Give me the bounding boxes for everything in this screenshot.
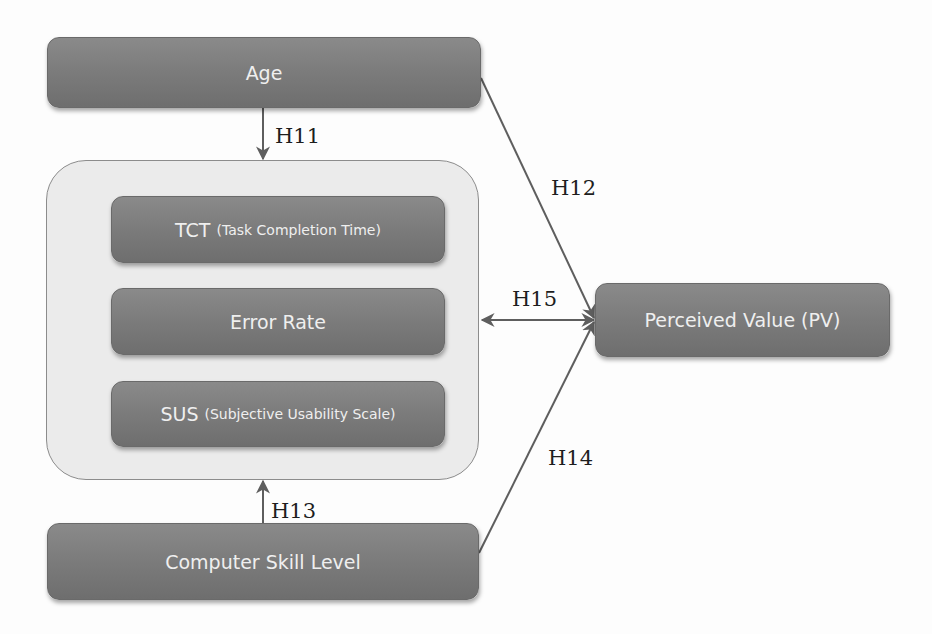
edge-label-h13: H13 <box>271 501 316 522</box>
node-perceived-value-label: Perceived Value (PV) <box>645 309 841 331</box>
node-tct-label: TCT <box>175 219 210 241</box>
node-perceived-value: Perceived Value (PV) <box>595 283 890 357</box>
node-tct: TCT (Task Completion Time) <box>111 196 445 263</box>
node-error-rate-label: Error Rate <box>230 311 326 333</box>
node-computer-skill-level-label: Computer Skill Level <box>165 551 361 573</box>
node-sus-label: SUS <box>160 403 198 425</box>
node-sus: SUS (Subjective Usability Scale) <box>111 381 445 447</box>
node-age-label: Age <box>246 62 283 84</box>
edge-label-h14: H14 <box>548 448 593 469</box>
node-error-rate: Error Rate <box>111 288 445 355</box>
node-sus-sublabel: (Subjective Usability Scale) <box>204 406 395 422</box>
node-computer-skill-level: Computer Skill Level <box>47 523 479 600</box>
node-age: Age <box>47 37 481 108</box>
edge-label-h15: H15 <box>512 289 557 310</box>
node-tct-sublabel: (Task Completion Time) <box>216 222 381 238</box>
edge-label-h11: H11 <box>275 126 320 147</box>
edge-label-h12: H12 <box>551 178 596 199</box>
edge-h14-arrow <box>479 322 594 553</box>
